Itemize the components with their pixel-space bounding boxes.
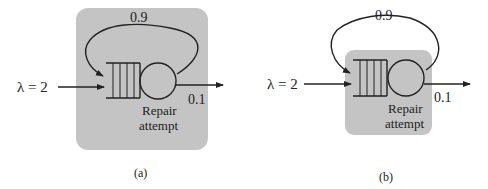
exit-prob-b: 0.1 <box>434 90 452 105</box>
diagram-a: 0.9 λ = 2 0.1 Repair attempt (a) <box>17 8 223 180</box>
caption-a: (a) <box>134 166 147 180</box>
diagram-b: 0.9 λ = 2 0.1 Repair attempt (b) <box>267 8 470 184</box>
feedback-prob-b: 0.9 <box>375 8 393 23</box>
server-label-line2-a: attempt <box>139 118 178 133</box>
server-label-line2-b: attempt <box>385 116 424 131</box>
server-label-line1-a: Repair <box>142 103 177 118</box>
server-label-line1-b: Repair <box>388 101 423 116</box>
arrival-label-a: λ = 2 <box>17 79 48 95</box>
caption-b: (b) <box>379 170 393 184</box>
arrival-label-b: λ = 2 <box>267 76 298 92</box>
exit-prob-a: 0.1 <box>188 92 206 107</box>
feedback-prob-a: 0.9 <box>130 10 148 25</box>
queue-diagrams: 0.9 λ = 2 0.1 Repair attempt (a) 0.9 λ =… <box>0 0 488 189</box>
